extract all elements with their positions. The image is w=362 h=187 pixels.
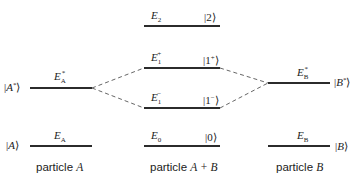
state-label-e1-minus: |1−⟩ xyxy=(203,95,219,106)
state-label-a-excited: |A*⟩ xyxy=(4,82,20,93)
state-label-a-ground: |A⟩ xyxy=(6,140,19,151)
state-label-b-ground: |B⟩ xyxy=(335,141,348,152)
energy-label-a-ground: EA xyxy=(54,130,66,141)
state-label-b-excited: |B*⟩ xyxy=(334,77,350,88)
state-label-e0: |0⟩ xyxy=(205,132,217,143)
dashed-connector xyxy=(92,88,144,108)
energy-label-e1-plus: E1+ xyxy=(151,52,165,63)
caption-particle-ab: particle A + B xyxy=(150,161,218,173)
energy-label-e0: E0 xyxy=(151,130,161,141)
energy-label-b-ground: EB xyxy=(297,130,308,141)
dashed-connector xyxy=(92,68,144,88)
energy-label-b-excited: EB* xyxy=(297,67,312,78)
dashed-connector xyxy=(220,83,268,108)
caption-particle-a: particle A xyxy=(36,161,83,173)
energy-level-diagram xyxy=(0,0,362,187)
dashed-connector xyxy=(220,68,268,83)
energy-label-a-excited: EA* xyxy=(54,71,69,82)
energy-label-e2: E2 xyxy=(151,10,161,21)
state-label-e1-plus: |1+⟩ xyxy=(203,55,219,66)
caption-particle-b: particle B xyxy=(276,161,323,173)
state-label-e2: |2⟩ xyxy=(204,12,216,23)
energy-label-e1-minus: E1− xyxy=(151,92,165,103)
